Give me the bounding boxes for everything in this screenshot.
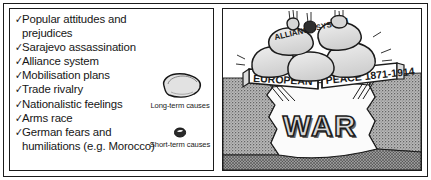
check-icon: ✓ bbox=[15, 12, 22, 26]
check-icon: ✓ bbox=[15, 97, 22, 111]
legend-label-long-term: Long-term causes bbox=[140, 101, 220, 111]
list-item-label: German fears and humiliations (e.g. Moro… bbox=[22, 125, 156, 153]
list-item-label: Popular attitudes and prejudices bbox=[22, 12, 156, 40]
legend-label-short-term: Short-term causes bbox=[140, 140, 220, 150]
pebble-3 bbox=[331, 16, 347, 29]
list-item: ✓ Mobilisation plans bbox=[14, 68, 156, 82]
list-item-label: Sarajevo assassination bbox=[22, 40, 156, 54]
pebble-1 bbox=[287, 18, 299, 30]
check-icon: ✓ bbox=[15, 54, 22, 68]
large-rock-icon bbox=[157, 72, 203, 99]
causes-list: ✓ Popular attitudes and prejudices ✓ Sar… bbox=[14, 12, 156, 153]
check-icon: ✓ bbox=[15, 68, 22, 82]
figure-title: Causes of the First World War diagram bbox=[0, 0, 1, 1]
list-item: ✓ German fears and humiliations (e.g. Mo… bbox=[14, 125, 156, 153]
list-item: ✓ Sarajevo assassination bbox=[14, 40, 156, 54]
legend-item-short-term: Short-term causes bbox=[140, 127, 220, 150]
peace-bridge-illustration: WAR WAR EUROP bbox=[223, 9, 421, 170]
ground-right-bank bbox=[367, 73, 421, 152]
legend: Long-term causes Short-term causes bbox=[140, 72, 220, 150]
list-item-label: Nationalistic feelings bbox=[22, 97, 156, 111]
causes-list-panel: ✓ Popular attitudes and prejudices ✓ Sar… bbox=[9, 8, 214, 171]
list-item-label: Trade rivalry bbox=[22, 82, 156, 96]
war-label: WAR WAR bbox=[283, 109, 360, 144]
list-item-label: Mobilisation plans bbox=[22, 68, 156, 82]
list-item: ✓ Popular attitudes and prejudices bbox=[14, 12, 156, 40]
figure-root: ✓ Popular attitudes and prejudices ✓ Sar… bbox=[0, 0, 431, 180]
check-icon: ✓ bbox=[15, 40, 22, 54]
check-icon: ✓ bbox=[15, 111, 22, 125]
boulder-center-front bbox=[288, 52, 334, 81]
list-item-label: Alliance system bbox=[22, 54, 156, 68]
check-icon: ✓ bbox=[15, 82, 22, 96]
list-item: ✓ Nationalistic feelings bbox=[14, 97, 156, 111]
list-item: ✓ Trade rivalry bbox=[14, 82, 156, 96]
list-item: ✓ Alliance system bbox=[14, 54, 156, 68]
war-label-text: WAR bbox=[283, 109, 358, 142]
small-pebble-icon bbox=[173, 127, 187, 138]
legend-item-long-term: Long-term causes bbox=[140, 72, 220, 111]
list-item: ✓ Arms race bbox=[14, 111, 156, 125]
pebble-2 bbox=[304, 21, 316, 33]
illustration-panel: WAR WAR EUROP bbox=[222, 8, 422, 171]
list-item-label: Arms race bbox=[22, 111, 156, 125]
check-icon: ✓ bbox=[15, 125, 22, 139]
